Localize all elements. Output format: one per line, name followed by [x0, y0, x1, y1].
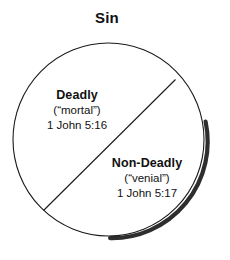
- sin-diagram: Sin Deadly (“mortal”) 1 John 5:16 Non-De…: [0, 0, 230, 260]
- region-reference-non-deadly: 1 John 5:17: [88, 186, 206, 201]
- region-reference-deadly: 1 John 5:16: [17, 118, 137, 133]
- region-alt-name-non-deadly: (“venial”): [88, 171, 206, 186]
- circle-outline: [13, 43, 204, 236]
- region-alt-name-deadly: (“mortal”): [17, 103, 137, 118]
- region-title-non-deadly: Non-Deadly: [88, 156, 206, 171]
- region-label-deadly: Deadly (“mortal”) 1 John 5:16: [17, 88, 137, 133]
- region-label-non-deadly: Non-Deadly (“venial”) 1 John 5:17: [88, 156, 206, 201]
- region-title-deadly: Deadly: [17, 88, 137, 103]
